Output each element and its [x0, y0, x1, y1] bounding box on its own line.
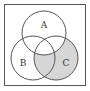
label-b: B	[20, 58, 27, 68]
label-c: C	[63, 58, 70, 68]
venn-diagram: A B C	[0, 0, 90, 91]
label-a: A	[40, 20, 48, 30]
